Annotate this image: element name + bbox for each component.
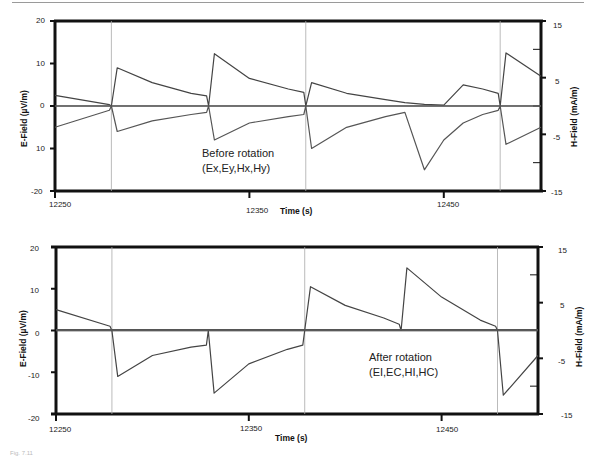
y-left-tick-neg20: -20 <box>28 414 40 423</box>
y-left-tick-10: 10 <box>36 59 45 68</box>
annotation-line2: (Ex,Ey,Hx,Hy) <box>202 162 270 174</box>
y-left-tick-10: 10 <box>30 286 39 295</box>
y-right-tick-neg15: -15 <box>551 188 563 197</box>
y-right-tick-neg5: -5 <box>553 133 561 142</box>
x-tick-12450: 12450 <box>436 425 459 434</box>
series-Ey <box>55 106 541 170</box>
annotation-line1: After rotation <box>369 351 432 363</box>
figure-caption: Fig. 7.11 <box>10 450 33 456</box>
y-right-tick-15: 15 <box>553 21 562 30</box>
x-tick-12250: 12250 <box>49 200 72 209</box>
y-right-tick-neg15: -15 <box>561 411 573 420</box>
series-EI <box>56 268 538 395</box>
x-tick-12250: 12250 <box>49 425 72 434</box>
y-left-axis-title: E-Field (µV/m) <box>19 90 29 147</box>
y-left-axis-title: E-Field (µV/m) <box>18 310 28 367</box>
y-right-tick-5: 5 <box>560 301 565 310</box>
x-axis-title: Time (s) <box>275 433 308 443</box>
y-right-axis-title: H-Field (mA/m) <box>574 306 584 367</box>
y-left-tick-0: 0 <box>35 329 40 338</box>
y-left-tick-20: 20 <box>30 244 39 253</box>
x-tick-12450: 12450 <box>437 200 460 209</box>
y-left-tick-20: 20 <box>36 16 45 25</box>
y-right-tick-15: 15 <box>558 246 567 255</box>
chart-before-rotation: Before rotation (Ex,Ey,Hx,Hy) 20 10 0 10… <box>0 0 597 230</box>
x-tick-12350: 12350 <box>240 424 263 433</box>
y-right-axis-title: H-Field (mA/m) <box>569 86 579 147</box>
y-left-tick-neg20: -20 <box>31 187 43 196</box>
y-right-tick-5: 5 <box>555 77 560 86</box>
series-Ex <box>55 53 541 106</box>
annotation-line2: (EI,EC,HI,HC) <box>369 366 438 378</box>
x-tick-12350: 12350 <box>246 206 269 215</box>
y-left-tick-0: 0 <box>40 101 45 110</box>
y-left-tick-neg10: 10 <box>36 144 45 153</box>
chart-after-rotation: After rotation (EI,EC,HI,HC) 20 10 0 -10… <box>0 230 597 461</box>
y-right-tick-neg5: -5 <box>558 357 566 366</box>
y-left-tick-neg10: -10 <box>28 371 40 380</box>
annotation-line1: Before rotation <box>202 147 274 159</box>
x-axis-title: Time (s) <box>280 206 313 216</box>
